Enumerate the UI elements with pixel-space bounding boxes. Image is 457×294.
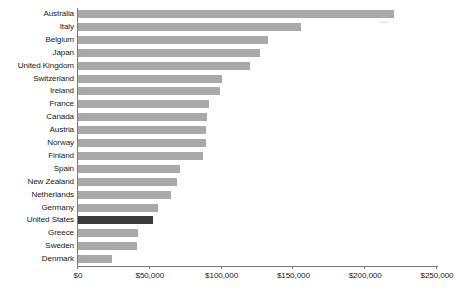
x-axis-tick-label: $250,000 bbox=[421, 271, 454, 280]
bar[interactable] bbox=[78, 255, 112, 263]
category-label: France bbox=[2, 98, 74, 111]
bar[interactable] bbox=[78, 126, 206, 134]
category-label: Japan bbox=[2, 47, 74, 60]
category-label-row: New Zealand bbox=[0, 176, 74, 189]
category-label: Ireland bbox=[2, 85, 74, 98]
category-label: Switzerland bbox=[2, 73, 74, 86]
bar-row bbox=[78, 73, 437, 86]
category-label-row: Germany bbox=[0, 202, 74, 215]
category-label-row: Italy bbox=[0, 21, 74, 34]
bar-row bbox=[78, 8, 437, 21]
x-axis-tick-label: $100,000 bbox=[205, 271, 238, 280]
category-label-row: Greece bbox=[0, 227, 74, 240]
bar-row bbox=[78, 240, 437, 253]
category-label-row: Canada bbox=[0, 111, 74, 124]
category-label: Belgium bbox=[2, 34, 74, 47]
bar[interactable] bbox=[78, 36, 268, 44]
category-label: Germany bbox=[2, 202, 74, 215]
bar-row bbox=[78, 124, 437, 137]
bar[interactable] bbox=[78, 152, 203, 160]
category-label-row: Denmark bbox=[0, 253, 74, 266]
category-label: Austria bbox=[2, 124, 74, 137]
bar[interactable] bbox=[78, 139, 206, 147]
category-label-row: Australia bbox=[0, 8, 74, 21]
x-axis-tick-label: $200,000 bbox=[349, 271, 382, 280]
x-axis-tick-label: $0 bbox=[74, 271, 83, 280]
category-label: Finland bbox=[2, 150, 74, 163]
bar-row bbox=[78, 163, 437, 176]
bar[interactable] bbox=[78, 113, 207, 121]
x-axis-line bbox=[77, 266, 438, 267]
bar[interactable] bbox=[78, 216, 153, 224]
bar-row bbox=[78, 253, 437, 266]
category-label-row: Japan bbox=[0, 47, 74, 60]
category-label-row: Switzerland bbox=[0, 73, 74, 86]
category-label: Netherlands bbox=[2, 189, 74, 202]
bar-row bbox=[78, 111, 437, 124]
bar[interactable] bbox=[78, 204, 158, 212]
category-label-row: Sweden bbox=[0, 240, 74, 253]
category-label: Canada bbox=[2, 111, 74, 124]
bar[interactable] bbox=[78, 75, 222, 83]
plot-area bbox=[78, 8, 437, 266]
bar[interactable] bbox=[78, 165, 180, 173]
bar[interactable] bbox=[78, 191, 171, 199]
category-label-row: Belgium bbox=[0, 34, 74, 47]
bar-row bbox=[78, 150, 437, 163]
bar-row bbox=[78, 189, 437, 202]
x-axis-tick-label: $50,000 bbox=[136, 271, 165, 280]
category-label: Sweden bbox=[2, 240, 74, 253]
category-label: Norway bbox=[2, 137, 74, 150]
category-label: Greece bbox=[2, 227, 74, 240]
bar[interactable] bbox=[78, 23, 301, 31]
category-label-row: Finland bbox=[0, 150, 74, 163]
x-axis-tick bbox=[149, 266, 150, 269]
x-axis-tick bbox=[364, 266, 365, 269]
x-axis-tick bbox=[77, 266, 78, 269]
category-label: United Kingdom bbox=[2, 60, 74, 73]
x-axis-tick bbox=[292, 266, 293, 269]
x-axis-tick-label: $150,000 bbox=[277, 271, 310, 280]
bar[interactable] bbox=[78, 49, 260, 57]
x-axis-tick bbox=[436, 266, 437, 269]
bar-row bbox=[78, 34, 437, 47]
bar-row bbox=[78, 60, 437, 73]
top-bar-value-mark bbox=[379, 21, 389, 23]
category-label: Australia bbox=[2, 8, 74, 21]
bar-row bbox=[78, 202, 437, 215]
bar-row bbox=[78, 98, 437, 111]
bar[interactable] bbox=[78, 178, 177, 186]
bar-row bbox=[78, 47, 437, 60]
category-label-row: Netherlands bbox=[0, 189, 74, 202]
category-axis-labels: AustraliaItalyBelgiumJapanUnited Kingdom… bbox=[0, 8, 74, 266]
bar[interactable] bbox=[78, 242, 137, 250]
bar-row bbox=[78, 214, 437, 227]
bar[interactable] bbox=[78, 100, 209, 108]
category-label: United States bbox=[2, 214, 74, 227]
bar[interactable] bbox=[78, 87, 220, 95]
category-label-row: Spain bbox=[0, 163, 74, 176]
category-label-row: France bbox=[0, 98, 74, 111]
category-label: Denmark bbox=[2, 253, 74, 266]
category-label-row: Austria bbox=[0, 124, 74, 137]
bar[interactable] bbox=[78, 10, 394, 18]
category-label: Spain bbox=[2, 163, 74, 176]
bar-row bbox=[78, 137, 437, 150]
bar-row bbox=[78, 176, 437, 189]
bar[interactable] bbox=[78, 229, 138, 237]
category-label-row: United Kingdom bbox=[0, 60, 74, 73]
category-label: Italy bbox=[2, 21, 74, 34]
bar-chart: AustraliaItalyBelgiumJapanUnited Kingdom… bbox=[0, 0, 457, 294]
bar[interactable] bbox=[78, 62, 250, 70]
category-label-row: Ireland bbox=[0, 85, 74, 98]
bar-row bbox=[78, 85, 437, 98]
category-label: New Zealand bbox=[2, 176, 74, 189]
bar-row bbox=[78, 227, 437, 240]
x-axis-tick bbox=[221, 266, 222, 269]
category-label-row: Norway bbox=[0, 137, 74, 150]
category-label-row: United States bbox=[0, 214, 74, 227]
